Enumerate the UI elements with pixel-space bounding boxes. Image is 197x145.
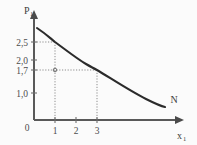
x-axis-arrow-icon	[175, 116, 184, 124]
y-tick-label-2-0: 2,0	[16, 56, 28, 66]
x-axis-title: x	[177, 130, 182, 141]
y-tick-label-1-7: 1,7	[16, 66, 28, 76]
y-tick-label-1-0: 1,0	[16, 89, 28, 99]
x-tick-label-1: 1	[53, 126, 58, 136]
demand-curve-line	[37, 28, 165, 107]
x-tick-label-2: 2	[74, 126, 79, 136]
guide-lines	[34, 42, 97, 120]
y-tick-label-2-5: 2,5	[16, 38, 28, 48]
demand-curve-chart: 2,5 2,0 1,7 1,0 0 1 2 3 N P 1 x 1	[0, 0, 197, 145]
chart-canvas: 2,5 2,0 1,7 1,0 0 1 2 3 N P 1 x 1	[0, 0, 197, 145]
curve-label-n: N	[170, 94, 177, 105]
origin-label: 0	[25, 123, 30, 133]
x-axis-title-subscript: 1	[183, 135, 186, 142]
y-axis-title-subscript: 1	[30, 10, 33, 17]
x-tick-label-3: 3	[95, 126, 100, 136]
